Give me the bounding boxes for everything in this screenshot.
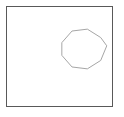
drawing-canvas-frame[interactable] (7, 7, 113, 107)
vector-drawing-area[interactable] (0, 0, 124, 117)
screenshot-canvas (0, 0, 124, 117)
